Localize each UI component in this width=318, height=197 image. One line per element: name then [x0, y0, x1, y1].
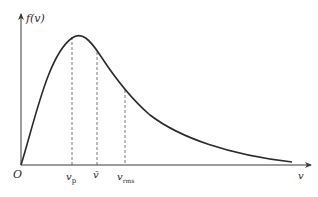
x-axis-label: v	[298, 170, 304, 181]
vp-label: vp	[66, 171, 77, 185]
vmean-label: v̄	[93, 169, 99, 180]
origin-label: O	[13, 168, 22, 181]
vrms-label: vrms	[117, 171, 134, 184]
y-axis-label: f(v)	[25, 12, 45, 25]
distribution-curve	[21, 36, 292, 165]
maxwell-distribution-chart: f(v) O v vp v̄ vrms	[0, 0, 318, 197]
